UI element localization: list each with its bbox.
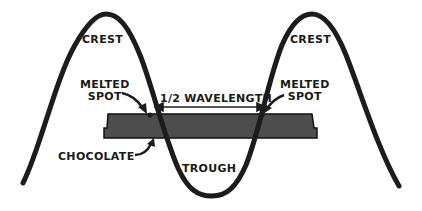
melted-spot-left-label: MELTED SPOT (80, 79, 130, 103)
crest-right-label: CREST (290, 34, 331, 46)
crest-left-label: CREST (82, 34, 123, 46)
half-wavelength-label: 1/2 WAVELENGTH (160, 93, 272, 105)
chocolate-label: CHOCOLATE (58, 151, 134, 163)
wave-diagram: CREST CREST MELTED SPOT MELTED SPOT 1/2 … (0, 0, 422, 211)
chocolate-bar (104, 114, 317, 138)
chocolate-arrow (135, 138, 155, 155)
trough-label: TROUGH (182, 163, 236, 175)
melted-spot-right (260, 113, 265, 118)
melted-spot-left (148, 113, 153, 118)
melted-spot-right-line2: SPOT (280, 91, 330, 103)
melted-spot-right-label: MELTED SPOT (280, 79, 330, 103)
melted-spot-left-line2: SPOT (80, 91, 130, 103)
diagram-graphics (0, 0, 422, 211)
